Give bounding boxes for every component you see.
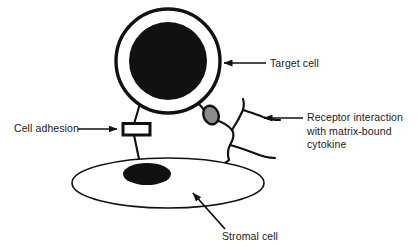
target-cell [116,9,220,113]
matrix-fiber-branch-up [232,99,244,130]
matrix-fibers [216,99,280,165]
adhesion-molecule [123,124,150,136]
label-receptor-line-2: with matrix-bound [307,125,392,137]
matrix-fiber-main [216,120,233,160]
receptor-body [200,103,221,126]
stromal-cell-membrane [72,158,264,208]
stromal-cell [72,158,264,208]
receptor [200,103,221,126]
stromal-cell-nucleus [123,163,171,185]
label-stromal-cell: Stromal cell [222,230,278,244]
adhesion-lower-stalk [134,135,139,159]
target-cell-nucleus [129,22,207,100]
matrix-fiber-branch-lower-right [230,145,275,158]
cell-interaction-diagram: Target cell Cell adhesion Receptor inter… [0,0,418,251]
label-target-cell: Target cell [270,57,319,71]
adhesion-upper-stalk [134,107,139,124]
label-cell-adhesion: Cell adhesion [14,122,79,136]
label-receptor-line-3: cytokine [307,138,346,150]
adhesion-molecule-body [123,124,150,136]
label-receptor-interaction: Receptor interactionwith matrix-boundcyt… [307,111,418,152]
label-receptor-line-1: Receptor interaction [307,111,403,123]
